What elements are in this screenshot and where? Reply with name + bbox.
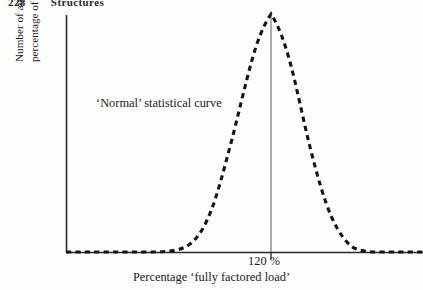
x-axis-caption: Percentage ‘fully factored load’ (0, 270, 423, 285)
y-axis-caption: Number of airframes failing at indicated… (12, 0, 56, 62)
chart-svg (0, 0, 423, 290)
curve-annotation-label: ‘Normal’ statistical curve (96, 96, 222, 111)
normal-distribution-chart (0, 0, 423, 290)
y-axis-caption-line-1: Number of airframes failing at indicated (12, 0, 27, 62)
figure-page: 228 Structures Number of airframes faili… (0, 0, 423, 290)
normal-curve-path (66, 14, 423, 252)
x-axis-tick-label-120: 120 % (248, 254, 280, 269)
y-axis-caption-line-2: percentage of ‘fully factored load’ (27, 0, 42, 62)
